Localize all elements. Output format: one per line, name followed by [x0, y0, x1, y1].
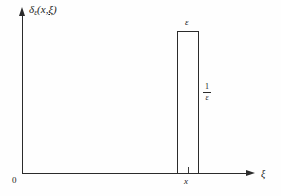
x-axis-label-xi: ξ	[261, 169, 265, 179]
y-label-args-open: (x,	[37, 3, 48, 15]
x-axis-line	[22, 173, 246, 174]
fraction-numerator: 1	[203, 83, 211, 93]
y-axis-line	[22, 14, 23, 174]
y-axis-arrowhead-icon	[19, 7, 25, 16]
y-label-args-close: )	[53, 3, 57, 15]
pulse-height-label: 1 ε	[203, 83, 211, 103]
x-axis-arrowhead-icon	[246, 170, 255, 176]
pulse-rectangle	[177, 31, 199, 173]
x-axis-tick-mark	[188, 167, 189, 173]
pulse-width-label: ε	[185, 18, 189, 27]
x-tick-label: x	[184, 177, 188, 186]
y-axis-label: δε(x,ξ)	[29, 4, 57, 17]
fraction-denominator: ε	[203, 93, 211, 102]
origin-label: 0	[12, 176, 17, 185]
delta-pulse-figure: δε(x,ξ) 0 x ξ ε 1 ε	[0, 0, 281, 196]
